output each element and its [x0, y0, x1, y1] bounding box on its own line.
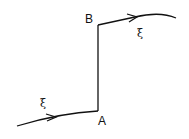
incoming-path [17, 111, 98, 126]
outgoing-path [98, 14, 176, 25]
xi-symbol-incoming: ξ [40, 98, 46, 109]
path-diagram [0, 0, 189, 139]
xi-symbol-outgoing: ξ [137, 28, 143, 39]
point-b-label: B [85, 13, 93, 25]
point-a-label: A [98, 115, 106, 127]
